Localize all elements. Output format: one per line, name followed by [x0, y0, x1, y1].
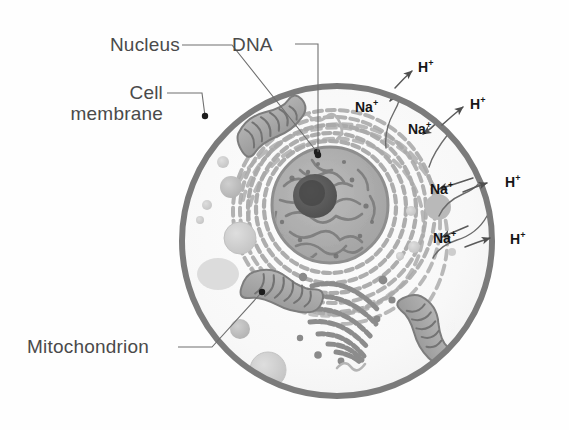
label-dna-line-1: DNA [232, 34, 273, 55]
ion-charge: + [373, 98, 378, 108]
label-nucleus-line-1: Nucleus [110, 34, 180, 55]
ion-symbol: H [510, 231, 520, 247]
ion-symbol: Na [408, 121, 426, 137]
ion-label-h-plus-4: H+ [510, 232, 525, 246]
ion-charge: + [426, 120, 431, 130]
ion-charge: + [515, 173, 520, 183]
ion-symbol: H [418, 59, 428, 75]
ion-symbol: Na [355, 99, 373, 115]
ion-label-h-plus-1: H+ [418, 60, 433, 74]
cell-illustration [0, 0, 569, 430]
ion-symbol: H [470, 96, 480, 112]
label-cell-membrane-line-1: Cell [0, 82, 163, 103]
ion-charge: + [480, 95, 485, 105]
cell-body [182, 62, 492, 396]
ion-symbol: Na [433, 230, 451, 246]
label-dna: DNA [232, 34, 273, 55]
ion-charge: + [428, 58, 433, 68]
ion-charge: + [451, 229, 456, 239]
label-cell-membrane-line-2: membrane [0, 103, 163, 124]
label-nucleus: Nucleus [0, 34, 180, 55]
ion-charge: + [448, 180, 453, 190]
ion-label-na-plus-4: Na+ [433, 231, 456, 245]
label-cell-membrane: Cell membrane [0, 82, 163, 125]
leader-cell-membrane [167, 93, 208, 119]
ion-label-na-plus-1: Na+ [355, 100, 378, 114]
ion-label-h-plus-3: H+ [505, 175, 520, 189]
label-mitochondrion: Mitochondrion [27, 336, 149, 357]
ion-label-na-plus-3: Na+ [430, 182, 453, 196]
label-mitochondrion-line-1: Mitochondrion [27, 336, 149, 357]
ion-charge: + [520, 230, 525, 240]
ion-label-na-plus-2: Na+ [408, 122, 431, 136]
ion-symbol: H [505, 174, 515, 190]
ion-label-h-plus-2: H+ [470, 97, 485, 111]
cell-diagram-figure: Nucleus Cell membrane DNA Mitochondrion … [0, 0, 569, 430]
nucleolus-core [299, 180, 325, 206]
ion-symbol: Na [430, 181, 448, 197]
nucleus [272, 147, 388, 263]
